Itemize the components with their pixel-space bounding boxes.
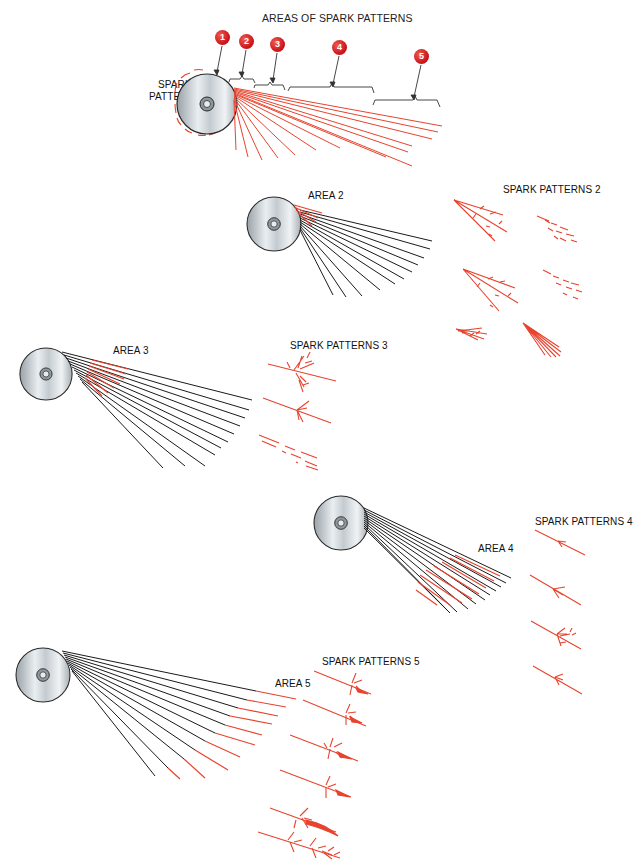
spark-patterns-3-illustrations xyxy=(259,352,336,470)
spark-patterns-5-illustrations xyxy=(258,671,371,859)
grinding-wheel-2 xyxy=(247,197,301,251)
spark-lines-5 xyxy=(62,651,296,779)
spark-patterns-2-illustrations xyxy=(454,200,582,357)
grinding-wheel-5 xyxy=(16,648,70,702)
spark-lines-3 xyxy=(62,352,252,468)
spark-lines-4 xyxy=(364,508,511,613)
badge-arrows xyxy=(214,46,421,100)
spark-lines-2 xyxy=(294,205,432,297)
area-brackets xyxy=(229,76,440,107)
spark-diagram-canvas xyxy=(0,0,644,866)
grinding-wheel-1 xyxy=(175,70,237,136)
spark-patterns-4-illustrations xyxy=(530,530,585,694)
grinding-wheel-4 xyxy=(314,496,368,550)
grinding-wheel-3 xyxy=(20,348,72,400)
